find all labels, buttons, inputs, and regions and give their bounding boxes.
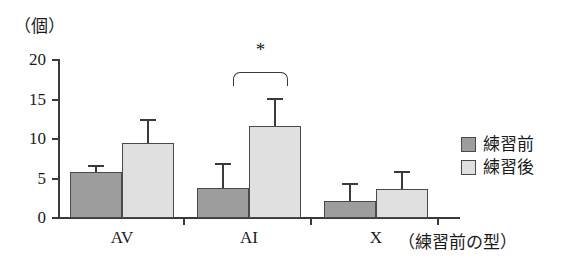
x-axis-tick	[437, 219, 439, 225]
error-bar-cap	[140, 119, 156, 121]
error-bar-stem	[349, 183, 351, 200]
error-bar-stem	[274, 98, 276, 126]
bar-AV-pre	[70, 172, 122, 218]
bar-X-post	[376, 189, 428, 218]
error-bar-cap	[267, 98, 283, 100]
y-axis-tick-label: 15	[6, 91, 46, 108]
bar-AI-post	[249, 126, 301, 218]
y-axis-tick-label: 5	[6, 170, 46, 187]
y-axis-tick-label: 0	[6, 209, 46, 226]
y-axis-tick	[52, 178, 59, 180]
error-bar-cap	[394, 171, 410, 173]
significance-star: *	[233, 40, 288, 59]
significance-bracket	[233, 72, 288, 86]
bar-AI-pre	[197, 188, 249, 218]
x-axis-tick	[183, 219, 185, 225]
legend-label-pre: 練習前	[483, 136, 534, 153]
bar-AV-post	[122, 143, 174, 218]
error-bar-cap	[88, 165, 104, 167]
legend: 練習前 練習後	[461, 133, 534, 179]
bar-X-pre	[324, 201, 376, 218]
y-axis-tick	[52, 59, 59, 61]
x-axis-label-AV: AV	[82, 228, 162, 248]
y-axis-tick-label: 10	[6, 130, 46, 147]
x-axis-caption: （練習前の型）	[398, 228, 517, 253]
bar-chart-figure: （個） 05101520 AVAIX（練習前の型） * 練習前 練習後	[0, 0, 575, 269]
legend-item-pre: 練習前	[461, 133, 534, 156]
error-bar-stem	[401, 171, 403, 188]
error-bar-stem	[147, 119, 149, 143]
error-bar-stem	[222, 163, 224, 187]
y-axis-unit-label: （個）	[14, 12, 65, 37]
error-bar-cap	[342, 183, 358, 185]
x-axis-label-AI: AI	[209, 228, 289, 248]
legend-item-post: 練習後	[461, 156, 534, 179]
error-bar-cap	[215, 163, 231, 165]
legend-swatch-pre-icon	[461, 137, 476, 152]
y-axis-tick	[52, 138, 59, 140]
legend-swatch-post-icon	[461, 160, 476, 175]
y-axis-tick	[52, 217, 59, 219]
y-axis-tick	[52, 99, 59, 101]
y-axis-tick-label: 20	[6, 51, 46, 68]
legend-label-post: 練習後	[483, 159, 534, 176]
x-axis-tick	[310, 219, 312, 225]
